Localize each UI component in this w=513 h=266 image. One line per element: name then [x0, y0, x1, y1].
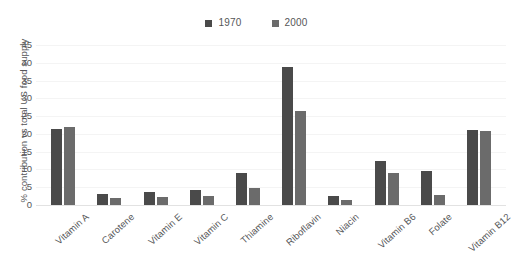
bar-1970[interactable]	[328, 196, 339, 205]
bar-2000[interactable]	[388, 173, 399, 205]
x-axis-labels: Vitamin ACaroteneVitamin EVitamin CThiam…	[36, 205, 506, 263]
bar-2000[interactable]	[434, 195, 445, 205]
legend-swatch-2000	[272, 20, 279, 27]
legend-item-2000[interactable]: 2000	[272, 18, 308, 28]
x-label-cell: Thiamine	[225, 205, 271, 263]
bar-2000[interactable]	[203, 196, 214, 205]
x-axis-label: Folate	[426, 211, 453, 237]
x-label-cell: Folate	[410, 205, 456, 263]
bar-group	[363, 45, 409, 205]
y-tick-label: 20	[21, 129, 32, 139]
bar-2000[interactable]	[480, 131, 491, 205]
legend-swatch-1970	[205, 20, 212, 27]
y-axis-ticks: 051015202530354045	[4, 45, 32, 205]
bar-1970[interactable]	[190, 190, 201, 205]
y-tick-label: 30	[21, 94, 32, 104]
legend-item-1970[interactable]: 1970	[205, 18, 241, 28]
y-tick-label: 15	[21, 147, 32, 157]
bar-2000[interactable]	[64, 127, 75, 205]
bar-group	[271, 45, 317, 205]
bar-group	[179, 45, 225, 205]
x-label-cell: Riboflavin	[271, 205, 317, 263]
y-tick-label: 5	[27, 182, 32, 192]
bar-group	[317, 45, 363, 205]
bar-group	[456, 45, 502, 205]
bar-1970[interactable]	[421, 171, 432, 205]
legend-label-1970: 1970	[218, 18, 241, 28]
y-tick-label: 35	[21, 76, 32, 86]
x-label-cell: Vitamin A	[40, 205, 86, 263]
chart-legend: 1970 2000	[0, 18, 513, 28]
bar-1970[interactable]	[375, 161, 386, 205]
y-tick-label: 40	[21, 58, 32, 68]
x-axis-label: Carotene	[100, 211, 137, 246]
bar-1970[interactable]	[467, 130, 478, 205]
x-axis-label: Thiamine	[238, 211, 275, 246]
bar-group	[40, 45, 86, 205]
bar-group	[225, 45, 271, 205]
x-axis-label: Vitamin B12	[466, 211, 512, 254]
x-label-cell: Vitamin E	[132, 205, 178, 263]
x-axis-label: Niacin	[334, 211, 361, 237]
x-label-cell: Niacin	[317, 205, 363, 263]
y-tick-label: 25	[21, 111, 32, 121]
x-label-cell: Vitamin B12	[456, 205, 502, 263]
bar-1970[interactable]	[97, 194, 108, 205]
bar-1970[interactable]	[144, 192, 155, 206]
x-label-cell: Carotene	[86, 205, 132, 263]
plot-area: 051015202530354045	[36, 45, 506, 205]
bar-group	[132, 45, 178, 205]
y-tick-label: 10	[21, 165, 32, 175]
bar-group	[86, 45, 132, 205]
bar-1970[interactable]	[51, 129, 62, 205]
x-label-cell: Vitamin B6	[363, 205, 409, 263]
bar-2000[interactable]	[157, 197, 168, 205]
legend-label-2000: 2000	[285, 18, 308, 28]
x-label-cell: Vitamin C	[179, 205, 225, 263]
bar-group	[410, 45, 456, 205]
bar-2000[interactable]	[295, 111, 306, 205]
bar-1970[interactable]	[282, 67, 293, 205]
bar-2000[interactable]	[110, 198, 121, 205]
bar-1970[interactable]	[236, 173, 247, 205]
bar-2000[interactable]	[249, 188, 260, 205]
bar-chart: 1970 2000 % contribution vs total US foo…	[0, 0, 513, 266]
y-tick-label: 45	[21, 40, 32, 50]
y-tick-label: 0	[27, 200, 32, 210]
bars-area	[36, 45, 506, 205]
